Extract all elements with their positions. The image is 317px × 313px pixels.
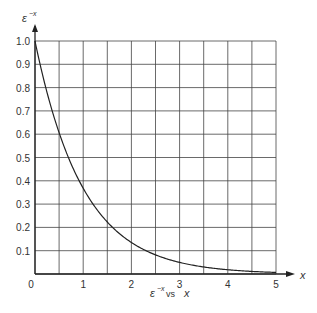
exponential-decay-chart: 0.10.20.30.40.50.60.70.80.91.0012345 ε −… [0, 0, 317, 313]
svg-text:0.3: 0.3 [16, 199, 30, 210]
svg-text:1: 1 [80, 279, 86, 290]
svg-text:3: 3 [177, 279, 183, 290]
x-axis-label: x [299, 269, 306, 281]
svg-text:0.4: 0.4 [16, 176, 30, 187]
svg-text:0.9: 0.9 [16, 59, 30, 70]
svg-text:vs: vs [166, 289, 176, 299]
grid-lines [35, 41, 276, 274]
svg-text:0.6: 0.6 [16, 129, 30, 140]
svg-text:5: 5 [273, 279, 279, 290]
svg-text:ε: ε [150, 287, 155, 299]
svg-text:−x: −x [29, 10, 37, 17]
svg-text:ε: ε [22, 12, 27, 24]
svg-text:0.2: 0.2 [16, 222, 30, 233]
svg-text:−x: −x [157, 285, 165, 292]
svg-text:1.0: 1.0 [16, 36, 30, 47]
svg-text:0.8: 0.8 [16, 83, 30, 94]
axes [32, 24, 295, 277]
svg-text:x: x [183, 287, 190, 299]
svg-text:4: 4 [225, 279, 231, 290]
svg-text:0.7: 0.7 [16, 106, 30, 117]
y-axis-label: ε −x [22, 10, 37, 24]
chart-caption: ε −x vs x [150, 285, 190, 299]
svg-text:0: 0 [28, 279, 34, 290]
svg-text:0.1: 0.1 [16, 246, 30, 257]
svg-text:2: 2 [129, 279, 135, 290]
svg-text:0.5: 0.5 [16, 153, 30, 164]
